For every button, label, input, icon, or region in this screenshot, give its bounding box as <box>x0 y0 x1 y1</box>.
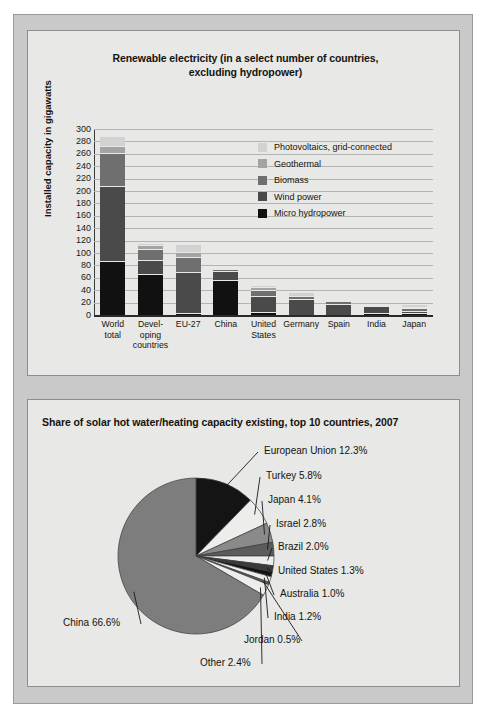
x-axis-tick-line: Devel- <box>132 319 170 330</box>
pie-leader-line <box>223 452 258 490</box>
bar-segment <box>364 313 389 315</box>
x-axis-tick-label: Worldtotal <box>94 319 132 340</box>
x-axis-tick-line: India <box>358 319 396 330</box>
x-axis-tick-label: UnitedStates <box>245 319 283 340</box>
x-axis-tick-line: oping <box>132 330 170 341</box>
pie-slice-label: India 1.2% <box>274 611 321 622</box>
y-axis-tick-label: 60 <box>61 273 91 282</box>
y-axis-tick-label: 260 <box>61 149 91 158</box>
x-axis-tick-line: Spain <box>320 319 358 330</box>
bar-segment <box>100 136 125 145</box>
legend-item-label: Biomass <box>274 175 309 185</box>
y-axis-tick-label: 120 <box>61 236 91 245</box>
page-root: Renewable electricity (in a select numbe… <box>0 0 487 718</box>
x-axis-tick-label: Japan <box>395 319 433 330</box>
legend-item: Photovoltaics, grid-connected <box>258 139 392 156</box>
x-axis-tick-line: Japan <box>395 319 433 330</box>
legend-item: Wind power <box>258 189 392 206</box>
gridline <box>94 228 433 229</box>
legend-item-label: Wind power <box>274 192 322 202</box>
legend-item: Micro hydropower <box>258 205 392 222</box>
x-axis-tick-label: India <box>358 319 396 330</box>
legend-item: Biomass <box>258 172 392 189</box>
bar-segment <box>364 306 389 313</box>
bar-column <box>251 285 276 315</box>
pie-slice-label: United States 1.3% <box>278 565 364 576</box>
pie-slice-label: Jordan 0.5% <box>244 634 300 645</box>
pie-slice-label: European Union 12.3% <box>264 445 367 456</box>
x-axis-tick-line: total <box>94 330 132 341</box>
gridline <box>94 129 433 130</box>
pie-chart-area: European Union 12.3%Turkey 5.8%Japan 4.1… <box>28 400 461 688</box>
bar-chart-legend: Photovoltaics, grid-connectedGeothermalB… <box>258 139 392 222</box>
pie-slice-label: Japan 4.1% <box>268 494 321 505</box>
x-axis-tick-label: Spain <box>320 319 358 330</box>
bar-column <box>289 292 314 315</box>
x-axis-tick-line: United <box>245 319 283 330</box>
bar-segment <box>213 280 238 315</box>
bar-chart-panel: Renewable electricity (in a select numbe… <box>27 30 460 376</box>
y-axis-tick-label: 20 <box>61 298 91 307</box>
gridline <box>94 241 433 242</box>
y-axis-tick-label: 300 <box>61 125 91 134</box>
pie-slice-label: Australia 1.0% <box>280 588 344 599</box>
x-axis-tick-line: States <box>245 330 283 341</box>
bar-chart-y-axis-label: Installed capacity in gigawatts <box>42 64 53 234</box>
bar-segment <box>138 260 163 273</box>
bar-segment <box>100 186 125 261</box>
bar-column <box>326 300 351 315</box>
y-axis-tick-label: 100 <box>61 249 91 258</box>
x-axis-tick-label: Germany <box>282 319 320 330</box>
y-axis-tick-label: 180 <box>61 199 91 208</box>
legend-swatch-icon <box>258 209 267 218</box>
bar-segment <box>251 296 276 313</box>
pie-slice-label: Israel 2.8% <box>276 518 326 529</box>
y-axis-tick-label: 140 <box>61 224 91 233</box>
y-axis-tick-label: 220 <box>61 174 91 183</box>
bar-segment <box>402 313 427 315</box>
y-axis-tick-label: 200 <box>61 187 91 196</box>
bar-chart-title-line1: Renewable electricity (in a select numbe… <box>68 51 423 65</box>
bar-column <box>176 244 201 315</box>
bar-segment <box>100 146 125 153</box>
bar-segment <box>138 249 163 261</box>
bar-column <box>100 136 125 315</box>
y-axis-line <box>94 129 95 316</box>
bar-column <box>364 305 389 315</box>
bar-column <box>402 304 427 315</box>
x-axis-tick-line: World <box>94 319 132 330</box>
bar-chart-title-line2: excluding hydropower) <box>68 65 423 79</box>
legend-item: Geothermal <box>258 156 392 173</box>
legend-item-label: Micro hydropower <box>274 208 346 218</box>
pie-slice-label: China 66.6% <box>63 617 120 628</box>
legend-swatch-icon <box>258 143 267 152</box>
bar-segment <box>176 244 201 252</box>
x-axis-tick-label: Devel-opingcountries <box>132 319 170 351</box>
legend-swatch-icon <box>258 159 267 168</box>
legend-swatch-icon <box>258 192 267 201</box>
x-axis-tick-line: countries <box>132 340 170 351</box>
bar-segment <box>100 153 125 186</box>
x-axis-tick-label: EU-27 <box>169 319 207 330</box>
x-axis-line <box>94 315 433 317</box>
y-axis-tick-label: 160 <box>61 211 91 220</box>
bar-segment <box>100 261 125 315</box>
y-axis-tick-label: 80 <box>61 261 91 270</box>
bar-segment <box>213 271 238 279</box>
x-axis-tick-line: China <box>207 319 245 330</box>
y-axis-tick-label: 40 <box>61 286 91 295</box>
x-axis-tick-line: Germany <box>282 319 320 330</box>
y-axis-tick-label: 240 <box>61 162 91 171</box>
bar-segment <box>176 313 201 315</box>
pie-chart-panel: Share of solar hot water/heating capacit… <box>27 399 460 687</box>
x-axis-tick-line: EU-27 <box>169 319 207 330</box>
x-axis-tick-label: China <box>207 319 245 330</box>
bar-segment <box>326 304 351 315</box>
bar-segment <box>251 312 276 315</box>
bar-segment <box>176 257 201 272</box>
bar-segment <box>289 299 314 315</box>
bar-segment <box>176 272 201 313</box>
pie-slice-label: Other 2.4% <box>200 657 251 668</box>
bar-segment <box>138 274 163 315</box>
y-axis-tick-label: 280 <box>61 137 91 146</box>
